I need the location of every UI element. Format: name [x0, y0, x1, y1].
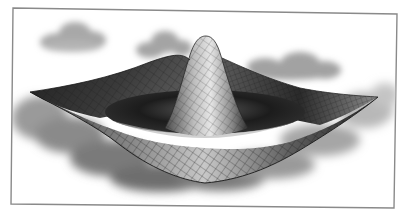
illustration: [0, 0, 411, 213]
ripple-surface-illustration: [0, 0, 411, 213]
